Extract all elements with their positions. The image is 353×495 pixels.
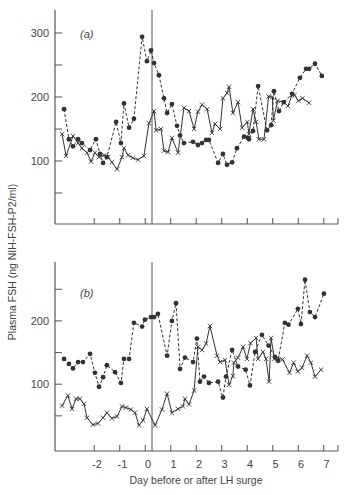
dot-marker xyxy=(313,315,318,320)
cross-marker xyxy=(110,416,114,420)
cross-marker xyxy=(307,101,311,105)
dot-marker xyxy=(248,383,253,388)
dot-marker xyxy=(269,123,274,128)
dot-marker xyxy=(191,139,196,144)
dot-marker xyxy=(198,379,203,384)
dot-marker xyxy=(132,116,137,121)
dot-marker xyxy=(132,320,137,325)
dot-marker xyxy=(152,315,157,320)
cross-marker xyxy=(296,99,300,103)
cross-marker xyxy=(145,407,149,411)
x-tick-label: -2 xyxy=(92,458,102,470)
dot-marker xyxy=(119,141,124,146)
dot-marker xyxy=(174,301,179,306)
dot-marker xyxy=(191,360,196,365)
panel-label: (b) xyxy=(80,287,94,299)
dot-marker xyxy=(143,317,148,322)
x-axis-title: Day before or after LH surge xyxy=(129,474,262,486)
dot-marker xyxy=(71,144,76,149)
cross-marker xyxy=(115,167,119,171)
dot-marker xyxy=(256,84,261,89)
dot-marker xyxy=(140,324,145,329)
dot-marker xyxy=(156,312,161,317)
dot-marker xyxy=(207,381,212,386)
cross-marker xyxy=(105,410,109,414)
dot-marker xyxy=(81,360,86,365)
dot-marker xyxy=(303,277,308,282)
dot-marker xyxy=(114,120,119,125)
dot-marker xyxy=(296,306,301,311)
series-dots-line xyxy=(64,280,324,398)
y-axis-title: Plasma FSH (ng NIH-FSH-P2/ml) xyxy=(6,184,18,340)
dot-marker xyxy=(207,137,212,142)
cross-marker xyxy=(300,366,304,370)
cross-marker xyxy=(71,134,75,138)
cross-marker xyxy=(131,156,135,160)
cross-marker xyxy=(280,357,284,361)
y-tick-label: 200 xyxy=(31,91,49,103)
dot-marker xyxy=(202,374,207,379)
cross-marker xyxy=(153,423,157,427)
dot-marker xyxy=(149,48,154,53)
cross-marker xyxy=(110,160,114,164)
y-tick-label: 100 xyxy=(31,155,49,167)
dot-marker xyxy=(101,375,106,380)
dot-marker xyxy=(76,360,81,365)
x-tick-label: 6 xyxy=(298,458,304,470)
dot-marker xyxy=(122,356,127,361)
dot-marker xyxy=(105,363,110,368)
dot-marker xyxy=(299,322,304,327)
dot-marker xyxy=(162,96,167,101)
dot-marker xyxy=(71,366,76,371)
cross-marker xyxy=(291,360,295,364)
x-tick-label: 3 xyxy=(221,458,227,470)
cross-marker xyxy=(319,367,323,371)
panel-b: 100200-2-101234567(b) xyxy=(31,262,338,470)
dot-marker xyxy=(195,336,200,341)
dot-marker xyxy=(94,137,99,142)
dot-marker xyxy=(67,137,72,142)
cross-marker xyxy=(213,122,217,126)
dot-marker xyxy=(253,350,258,355)
x-tick-label: -1 xyxy=(118,458,128,470)
dot-marker xyxy=(88,351,93,356)
dot-marker xyxy=(140,34,145,39)
cross-marker xyxy=(176,407,180,411)
x-tick-label: 2 xyxy=(196,458,202,470)
cross-marker xyxy=(236,355,240,359)
dot-marker xyxy=(196,143,201,148)
dot-marker xyxy=(260,332,265,337)
dot-marker xyxy=(200,141,205,146)
dot-marker xyxy=(319,73,324,78)
cross-marker xyxy=(305,354,309,358)
dot-marker xyxy=(165,353,170,358)
x-tick-label: 0 xyxy=(145,458,151,470)
dot-marker xyxy=(113,370,118,375)
cross-marker xyxy=(93,150,97,154)
dot-marker xyxy=(307,66,312,71)
dot-marker xyxy=(170,102,175,107)
dot-marker xyxy=(235,146,240,151)
y-tick-label: 100 xyxy=(31,378,49,390)
panel-label: (a) xyxy=(80,28,94,40)
x-tick-label: 1 xyxy=(170,458,176,470)
dot-marker xyxy=(286,322,291,327)
dot-marker xyxy=(243,367,248,372)
dot-marker xyxy=(67,362,72,367)
cross-marker xyxy=(129,407,133,411)
panel-a: 100200300(a) xyxy=(31,10,338,224)
dot-marker xyxy=(225,162,230,167)
dot-marker xyxy=(313,61,318,66)
cross-marker xyxy=(300,96,304,100)
dot-marker xyxy=(247,137,252,142)
cross-marker xyxy=(261,350,265,354)
cross-marker xyxy=(136,158,140,162)
dot-marker xyxy=(127,356,132,361)
dot-marker xyxy=(221,395,226,400)
x-tick-label: 5 xyxy=(272,458,278,470)
dot-marker xyxy=(183,355,188,360)
dot-marker xyxy=(272,89,277,94)
dot-marker xyxy=(307,310,312,315)
cross-marker xyxy=(101,416,105,420)
x-tick-label: 4 xyxy=(247,458,253,470)
